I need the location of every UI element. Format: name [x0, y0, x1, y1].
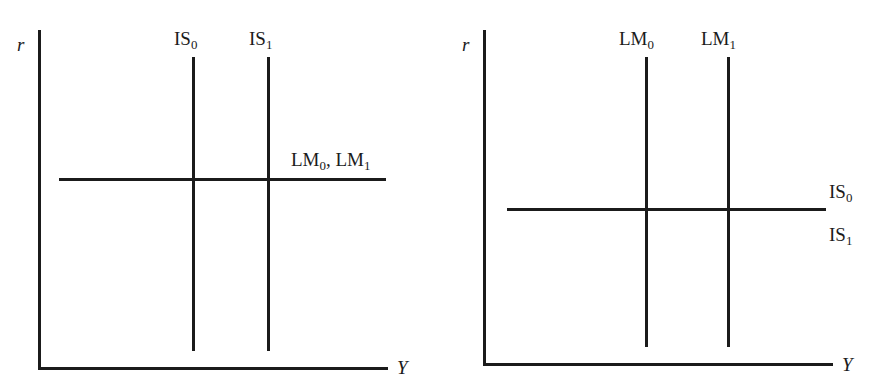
left-panel-x-axis-label: Y	[397, 358, 408, 377]
right-panel-is0-label-sub: 0	[846, 190, 852, 205]
left-panel-is0-label-base: IS	[174, 28, 191, 49]
left-panel-is0-label-sub: 0	[191, 37, 197, 52]
left-panel-is1-label-sub: 1	[266, 37, 272, 52]
right-panel: r Y LM0 LM1 IS0 IS1	[443, 0, 886, 391]
right-panel-lm0-curve	[645, 57, 648, 347]
left-panel-lm0-label-base: LM	[291, 149, 320, 170]
left-panel-lm1-label-sub: 1	[364, 158, 370, 173]
right-panel-is1-label-base: IS	[829, 224, 846, 245]
left-panel-lm-label: LM0, LM1	[291, 150, 370, 169]
left-panel-y-axis-label: r	[17, 35, 24, 54]
left-panel-x-axis	[38, 367, 388, 370]
right-panel-x-axis	[483, 363, 833, 366]
right-panel-lm1-label-base: LM	[701, 28, 730, 49]
left-panel-is1-curve	[267, 57, 270, 351]
left-panel-lm1-label-base: LM	[335, 149, 364, 170]
left-panel-is1-label: IS1	[249, 29, 272, 48]
right-panel-is-curve	[507, 208, 826, 211]
right-panel-is0-label-base: IS	[829, 181, 846, 202]
right-panel-is1-label-sub: 1	[846, 233, 852, 248]
left-panel-lm0-label-sub: 0	[320, 158, 326, 173]
right-panel-lm1-label: LM1	[701, 29, 736, 48]
left-panel-y-axis	[38, 30, 41, 370]
left-panel-is0-curve	[192, 57, 195, 351]
left-panel-lm-curve	[59, 178, 386, 181]
figure-canvas: r Y IS0 IS1 LM0, LM1 r Y LM0 LM1 IS0 IS1	[0, 0, 886, 391]
right-panel-is1-label: IS1	[829, 225, 852, 244]
right-panel-y-axis-label: r	[462, 35, 469, 54]
right-panel-lm1-curve	[727, 57, 730, 347]
right-panel-y-axis	[483, 30, 486, 366]
right-panel-lm0-label-base: LM	[619, 28, 648, 49]
right-panel-lm1-label-sub: 1	[730, 37, 736, 52]
left-panel: r Y IS0 IS1 LM0, LM1	[0, 0, 443, 391]
right-panel-lm0-label-sub: 0	[648, 37, 654, 52]
left-panel-is1-label-base: IS	[249, 28, 266, 49]
right-panel-is0-label: IS0	[829, 182, 852, 201]
right-panel-x-axis-label: Y	[842, 355, 853, 374]
left-panel-is0-label: IS0	[174, 29, 197, 48]
right-panel-lm0-label: LM0	[619, 29, 654, 48]
